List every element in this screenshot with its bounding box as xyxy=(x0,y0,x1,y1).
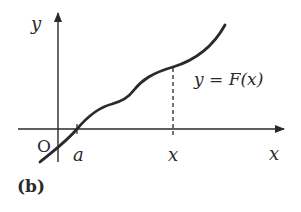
diagram-canvas: y x O a x y = F(x) (b) xyxy=(0,0,301,212)
x-axis-label: x xyxy=(269,143,279,164)
curve-F xyxy=(40,25,225,162)
curve-label: y = F(x) xyxy=(193,69,263,89)
tick-x-label: x xyxy=(168,144,178,165)
panel-label: (b) xyxy=(17,176,45,196)
tick-a-label: a xyxy=(73,144,84,165)
origin-label: O xyxy=(37,136,51,156)
y-axis-label: y xyxy=(30,13,42,34)
